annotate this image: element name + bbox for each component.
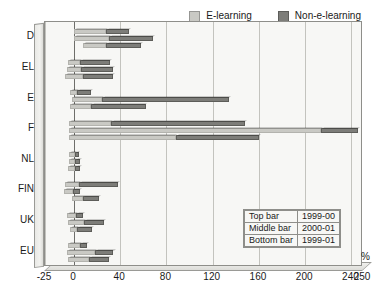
bar-segment-e-learning (68, 60, 80, 65)
bar-E-1999-01 (45, 104, 361, 109)
x-axis-unit-label: % (361, 252, 370, 262)
bar-segment-non-e-learning (77, 90, 91, 95)
bar-segment-e-learning (65, 182, 79, 187)
bar-segment-non-e-learning (89, 257, 109, 262)
bar-segment-e-learning (64, 189, 73, 194)
bar-segment-e-learning (74, 29, 106, 34)
bar-segment-non-e-learning (80, 243, 87, 248)
x-axis-labels: -2504080120160200240250 (0, 272, 375, 286)
note-bar-label: Bottom bar (245, 235, 298, 247)
legend-entry-non-e-learning: Non-e-learning (278, 11, 361, 22)
bar-segment-e-learning (83, 43, 106, 48)
bar-group-NL (45, 145, 361, 176)
bar-segment-non-e-learning (77, 227, 92, 232)
bar-NL-1999-01 (45, 166, 361, 171)
legend-label-non-e-learning: Non-e-learning (295, 11, 361, 21)
bar-segment-e-learning (69, 121, 111, 126)
legend-swatch-non-e-learning (278, 11, 289, 22)
bar-segment-non-e-learning (106, 29, 129, 34)
bar-F-2000-01 (45, 128, 361, 133)
note-bar-label: Middle bar (245, 223, 298, 235)
bar-segment-e-learning (68, 243, 80, 248)
x-axis-tick-120: 120 (203, 272, 220, 282)
bar-segment-e-learning (72, 196, 84, 201)
y-axis-label-F: F (28, 123, 34, 133)
bar-group-E (45, 83, 361, 114)
bar-D-1999-01 (45, 43, 361, 48)
bar-period-note-table: Top bar1999-00Middle bar2000-01Bottom ba… (243, 209, 341, 248)
note-bar-label: Top bar (245, 211, 298, 223)
x-axis-tick-80: 80 (160, 272, 171, 282)
bar-segment-non-e-learning (79, 182, 118, 187)
y-axis-label-EU: EU (20, 246, 34, 256)
bar-segment-non-e-learning (84, 220, 104, 225)
bar-segment-e-learning (68, 220, 84, 225)
bar-segment-non-e-learning (102, 97, 229, 102)
bar-EL-1999-01 (45, 74, 361, 79)
bar-group-F (45, 114, 361, 145)
bar-segment-non-e-learning (76, 213, 83, 218)
bar-segment-e-learning (69, 128, 321, 133)
bar-F-1999-00 (45, 121, 361, 126)
bar-E-1999-00 (45, 90, 361, 95)
bar-segment-e-learning (67, 250, 95, 255)
bar-segment-non-e-learning (91, 104, 145, 109)
bar-FIN-1999-01 (45, 196, 361, 201)
x-axis-tick--25: -25 (37, 272, 51, 282)
y-axis-label-FIN: FIN (18, 184, 34, 194)
note-row: Top bar1999-00 (245, 211, 340, 223)
bar-segment-non-e-learning (83, 196, 99, 201)
chart-container: E-learning Non-e-learning DELEFNLFINUKEU… (0, 0, 375, 296)
bar-segment-non-e-learning (80, 60, 110, 65)
x-axis-tick-0: 0 (70, 272, 76, 282)
bar-segment-non-e-learning (75, 166, 80, 171)
bar-segment-e-learning (69, 135, 175, 140)
bar-segment-non-e-learning (73, 189, 80, 194)
legend-swatch-e-learning (189, 11, 200, 22)
bar-EL-1999-00 (45, 60, 361, 65)
bar-segment-non-e-learning (109, 36, 153, 41)
bar-segment-e-learning (74, 36, 109, 41)
note-row: Middle bar2000-01 (245, 223, 340, 235)
x-axis-tick-160: 160 (250, 272, 267, 282)
bar-D-1999-00 (45, 29, 361, 34)
note-period-value: 1999-01 (298, 235, 340, 247)
legend-label-e-learning: E-learning (206, 11, 252, 21)
bar-segment-non-e-learning (111, 121, 245, 126)
bar-NL-2000-01 (45, 159, 361, 164)
bar-segment-e-learning (72, 97, 102, 102)
bar-segment-e-learning (67, 67, 81, 72)
bar-FIN-2000-01 (45, 189, 361, 194)
bar-segment-e-learning (70, 90, 77, 95)
note-period-value: 2000-01 (298, 223, 340, 235)
bar-segment-e-learning (68, 257, 89, 262)
bar-segment-non-e-learning (321, 128, 358, 133)
bar-segment-e-learning (70, 104, 91, 109)
bar-segment-e-learning (65, 74, 84, 79)
y-axis-label-D: D (27, 31, 34, 41)
note-period-value: 1999-00 (298, 211, 340, 223)
bar-segment-non-e-learning (95, 250, 114, 255)
note-row: Bottom bar1999-01 (245, 235, 340, 247)
x-axis-tick-200: 200 (296, 272, 313, 282)
x-axis-tick-40: 40 (114, 272, 125, 282)
y-axis-label-E: E (27, 93, 34, 103)
bar-segment-non-e-learning (75, 152, 78, 157)
bar-EU-2000-01 (45, 250, 361, 255)
x-axis-tick-250: 250 (354, 272, 371, 282)
bar-group-EL (45, 53, 361, 84)
bar-group-D (45, 22, 361, 53)
y-axis-labels: DELEFNLFINUKEU (0, 21, 40, 266)
bar-segment-non-e-learning (75, 159, 80, 164)
bar-FIN-1999-00 (45, 182, 361, 187)
y-axis-label-UK: UK (20, 215, 34, 225)
bar-segment-e-learning (68, 166, 75, 171)
bar-E-2000-01 (45, 97, 361, 102)
bar-NL-1999-00 (45, 152, 361, 157)
bar-segment-non-e-learning (106, 43, 141, 48)
bar-segment-e-learning (70, 227, 77, 232)
bar-segment-non-e-learning (81, 67, 113, 72)
bar-group-FIN (45, 175, 361, 206)
bar-D-2000-01 (45, 36, 361, 41)
bar-EU-1999-01 (45, 257, 361, 262)
